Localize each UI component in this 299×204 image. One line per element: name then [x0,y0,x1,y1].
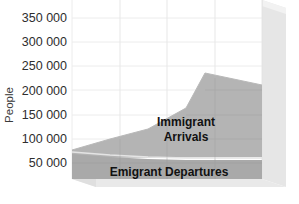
series-label-immigrant-arrivals-line1: Immigrant [157,115,215,129]
y-tick-200000: 200 000 [22,84,67,98]
y-tick-250000: 250 000 [22,59,67,73]
y-tick-350000: 350 000 [22,11,67,25]
y-axis-tick-labels: 350 000 300 000 250 000 200 000 150 000 … [22,11,67,170]
chart-3d-right-wall [262,0,286,187]
y-axis-title: People [3,87,15,123]
y-tick-50000: 50 000 [29,156,67,170]
series-label-immigrant-arrivals-line2: Arrivals [164,130,209,144]
y-tick-100000: 100 000 [22,132,67,146]
chart-3d-floor [72,179,286,187]
y-tick-150000: 150 000 [22,108,67,122]
stacked-area-chart: 350 000 300 000 250 000 200 000 150 000 … [0,0,299,204]
chart-container: 350 000 300 000 250 000 200 000 150 000 … [0,0,299,204]
y-tick-300000: 300 000 [22,35,67,49]
series-label-emigrant-departures: Emigrant Departures [110,165,229,179]
